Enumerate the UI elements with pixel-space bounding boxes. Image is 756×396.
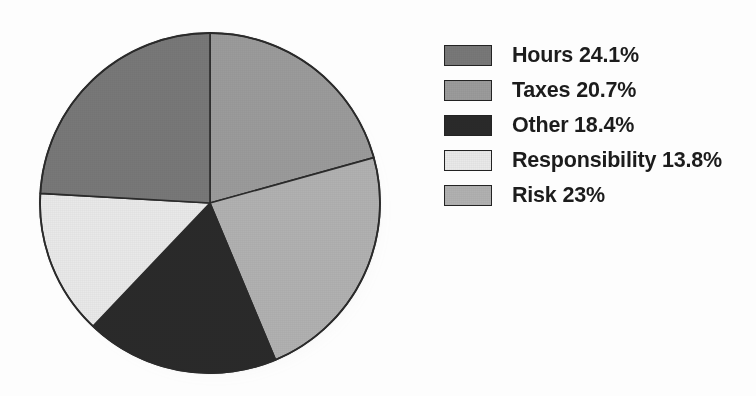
- legend-swatch-risk: [444, 185, 492, 206]
- legend-label-other: Other 18.4%: [512, 115, 634, 137]
- legend-swatch-taxes: [444, 80, 492, 101]
- legend-swatch-responsibility: [444, 150, 492, 171]
- legend-item-risk[interactable]: Risk 23%: [444, 178, 744, 213]
- pie-slice-group: [40, 33, 380, 373]
- pie-slices-svg: [38, 31, 382, 375]
- pie-chart-figure: Hours 24.1%Taxes 20.7%Other 18.4%Respons…: [0, 0, 756, 396]
- pie-chart-graphic: [38, 31, 382, 375]
- legend-label-responsibility: Responsibility 13.8%: [512, 150, 722, 172]
- legend-label-hours: Hours 24.1%: [512, 45, 639, 67]
- legend-item-taxes[interactable]: Taxes 20.7%: [444, 73, 744, 108]
- pie-slice-hours[interactable]: [40, 33, 210, 203]
- legend-item-responsibility[interactable]: Responsibility 13.8%: [444, 143, 744, 178]
- legend-swatch-other: [444, 115, 492, 136]
- legend-item-other[interactable]: Other 18.4%: [444, 108, 744, 143]
- legend-swatch-hours: [444, 45, 492, 66]
- legend-item-hours[interactable]: Hours 24.1%: [444, 38, 744, 73]
- legend-label-risk: Risk 23%: [512, 185, 605, 207]
- legend: Hours 24.1%Taxes 20.7%Other 18.4%Respons…: [444, 38, 744, 213]
- legend-label-taxes: Taxes 20.7%: [512, 80, 636, 102]
